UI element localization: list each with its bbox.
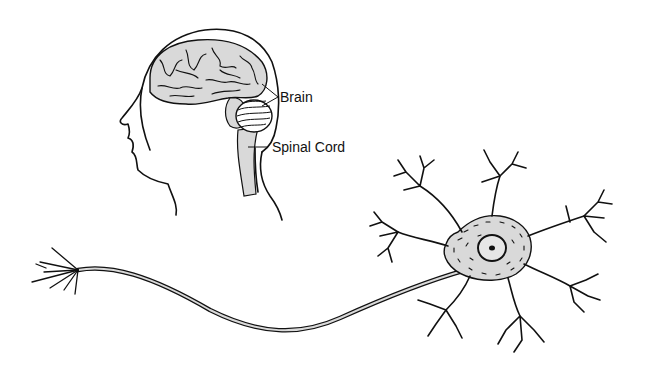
axon [78, 268, 466, 330]
neuron-diagram [0, 0, 646, 369]
illustration: Brain Spinal Cord [0, 0, 646, 369]
axon-terminal [32, 248, 78, 294]
